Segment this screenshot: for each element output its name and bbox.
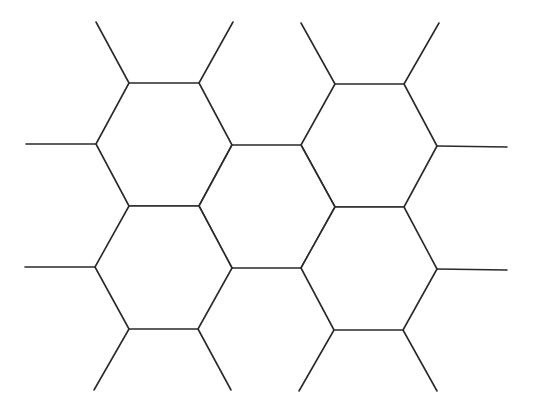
stub-right-1-edge (437, 146, 507, 147)
hexagon-lattice-diagram (0, 0, 537, 415)
diagram-svg (0, 0, 537, 415)
stub-right-2-edge (437, 269, 507, 270)
